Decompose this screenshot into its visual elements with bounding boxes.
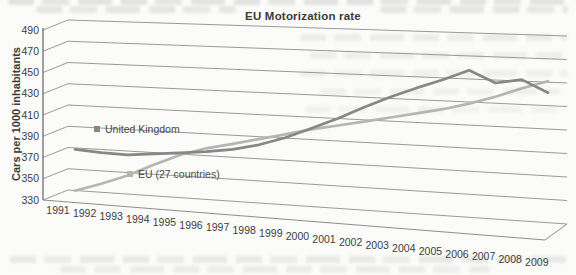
y-tick-label: 350 — [21, 172, 39, 184]
legend-marker-uk — [94, 126, 100, 132]
floor-right-edge — [545, 224, 567, 240]
grid-depth-riser — [43, 148, 68, 158]
y-tick-label: 330 — [21, 194, 39, 206]
x-year-label: 2004 — [392, 242, 416, 254]
gridline — [68, 41, 567, 59]
chart-page: EU Motorization rate Cars per 1000 inhab… — [0, 0, 576, 275]
y-tick-label: 490 — [21, 24, 39, 36]
x-year-label: 2009 — [525, 256, 549, 268]
x-year-label: 2002 — [339, 236, 363, 248]
y-tick-label: 390 — [21, 130, 39, 142]
x-year-label: 1993 — [100, 210, 124, 222]
x-year-label: 1992 — [73, 207, 97, 219]
x-year-label: 1997 — [206, 221, 230, 233]
y-tick-label: 430 — [21, 87, 39, 99]
x-year-label: 1998 — [233, 224, 257, 236]
x-year-label: 2005 — [419, 245, 443, 257]
x-year-label: 1996 — [179, 219, 203, 231]
x-year-label: 2001 — [312, 233, 336, 245]
x-year-label: 1999 — [259, 227, 283, 239]
y-tick-label: 470 — [21, 45, 39, 57]
x-year-label: 1994 — [126, 213, 150, 225]
legend-label-uk: United Kingdom — [105, 123, 180, 135]
x-year-label: 2003 — [366, 239, 390, 251]
y-tick-label: 370 — [21, 151, 39, 163]
series-line-uk — [75, 70, 548, 155]
grid-depth-riser — [43, 41, 68, 51]
y-tick-label: 450 — [21, 66, 39, 78]
x-year-label: 1995 — [153, 216, 177, 228]
x-year-label: 1991 — [46, 204, 70, 216]
grid-depth-riser — [43, 190, 68, 200]
gridline — [68, 20, 567, 36]
grid-depth-riser — [43, 169, 68, 179]
x-year-label: 2008 — [499, 253, 523, 265]
grid-depth-riser — [43, 105, 68, 115]
grid-depth-riser — [43, 126, 68, 136]
y-tick-label: 410 — [21, 109, 39, 121]
grid-depth-riser — [43, 84, 68, 94]
gridline — [68, 84, 567, 107]
x-year-label: 2006 — [445, 248, 469, 260]
x-year-label: 2000 — [286, 230, 310, 242]
grid-depth-riser — [43, 20, 68, 30]
grid-depth-riser — [43, 63, 68, 73]
legend-marker-eu — [127, 171, 133, 177]
motorization-rate-plot: 3303503703904104304504704901991199219931… — [0, 0, 576, 275]
x-year-label: 2007 — [472, 250, 496, 262]
legend-label-eu: EU (27 countries) — [138, 168, 220, 180]
